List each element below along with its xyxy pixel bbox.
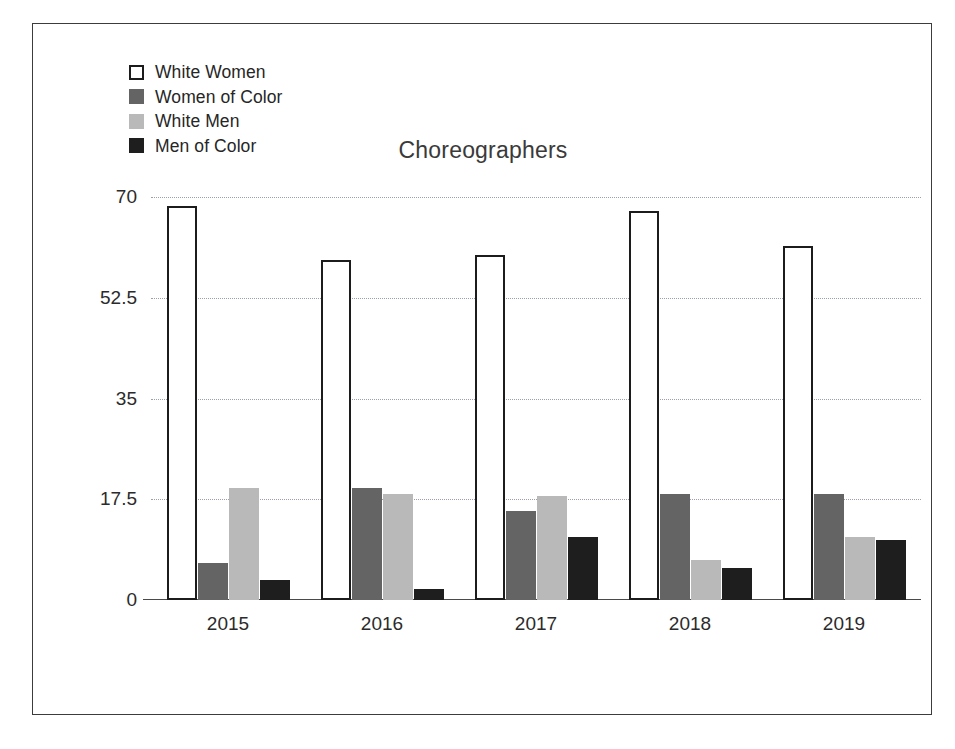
x-axis-tick-label-2018: 2018: [669, 613, 711, 635]
y-axis-tick-label: 70: [116, 186, 137, 208]
legend-swatch-white-men: [129, 114, 144, 129]
bar-men-of-color-2016: [414, 589, 444, 601]
bar-white-men-2015: [229, 488, 259, 600]
y-axis-tick-label: 0: [126, 589, 137, 611]
legend-item-white-men: White Men: [129, 111, 283, 131]
bar-women-of-color-2019: [814, 494, 844, 601]
legend-swatch-white-women: [129, 65, 144, 80]
bar-men-of-color-2017: [568, 537, 598, 600]
bar-men-of-color-2019: [876, 540, 906, 600]
bar-men-of-color-2018: [722, 568, 752, 600]
y-axis-tick-label: 35: [116, 388, 137, 410]
bar-group-2019: 2019: [767, 197, 921, 600]
legend-swatch-women-of-color: [129, 89, 144, 104]
bar-women-of-color-2018: [660, 494, 690, 601]
bar-group-2018: 2018: [613, 197, 767, 600]
bar-white-men-2016: [383, 494, 413, 601]
bar-group-2017: 2017: [459, 197, 613, 600]
bar-white-women-2018: [629, 211, 659, 600]
legend-label-white-women: White Women: [155, 62, 266, 82]
bar-men-of-color-2015: [260, 580, 290, 600]
x-axis-tick-label-2017: 2017: [515, 613, 557, 635]
legend-label-white-men: White Men: [155, 111, 240, 131]
bar-white-men-2017: [537, 496, 567, 600]
legend-item-white-women: White Women: [129, 62, 283, 82]
bar-white-women-2017: [475, 255, 505, 600]
bar-women-of-color-2015: [198, 563, 228, 600]
bar-group-2015: 2015: [151, 197, 305, 600]
bar-white-men-2019: [845, 537, 875, 600]
bar-group-2016: 2016: [305, 197, 459, 600]
bar-white-men-2018: [691, 560, 721, 600]
bar-women-of-color-2017: [506, 511, 536, 600]
plot-area: 017.53552.570 20152016201720182019: [151, 197, 921, 600]
bar-white-women-2016: [321, 260, 351, 600]
figure-frame: White Women Women of Color White Men Men…: [32, 23, 932, 715]
chart-title: Choreographers: [33, 137, 933, 164]
bar-white-women-2019: [783, 246, 813, 600]
bar-women-of-color-2016: [352, 488, 382, 600]
y-axis-tick-label: 17.5: [100, 488, 137, 510]
bars-layer: 20152016201720182019: [151, 197, 921, 600]
legend-label-women-of-color: Women of Color: [155, 87, 283, 107]
x-axis-tick-label-2016: 2016: [361, 613, 403, 635]
y-axis-tick-label: 52.5: [100, 287, 137, 309]
bar-white-women-2015: [167, 206, 197, 600]
x-axis-tick-label-2019: 2019: [823, 613, 865, 635]
x-axis-tick-label-2015: 2015: [207, 613, 249, 635]
legend-item-women-of-color: Women of Color: [129, 87, 283, 107]
